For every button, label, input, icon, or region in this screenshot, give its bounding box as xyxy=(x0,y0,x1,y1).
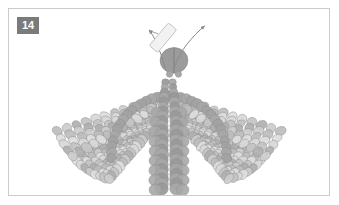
figure-frame: 14 xyxy=(8,8,330,196)
panel-number-badge: 14 xyxy=(17,17,39,34)
screenshot-root: 14 xyxy=(0,0,339,205)
head-group xyxy=(160,48,188,78)
figure-illustration xyxy=(9,9,329,195)
